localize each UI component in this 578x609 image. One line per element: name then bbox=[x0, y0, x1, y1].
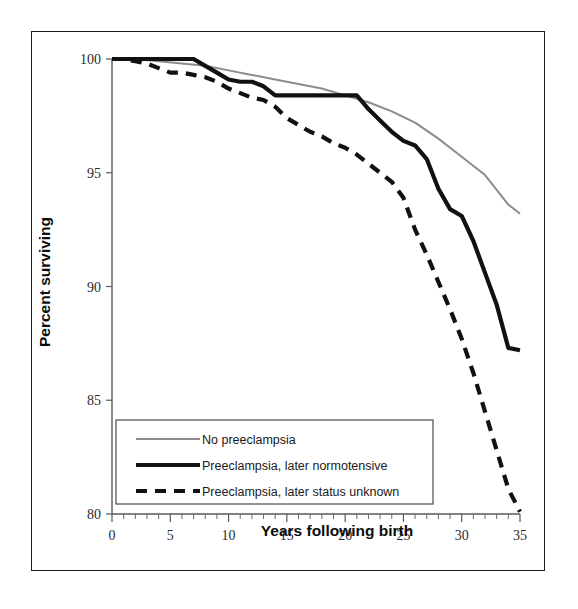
x-axis-title: Years following birth bbox=[261, 522, 413, 539]
y-axis-title: Percent surviving bbox=[36, 217, 53, 347]
x-tick-label: 35 bbox=[513, 528, 527, 543]
legend-label-1: Preeclampsia, later normotensive bbox=[202, 459, 388, 473]
x-axis-ticks bbox=[112, 514, 520, 522]
y-tick-label: 85 bbox=[87, 393, 101, 408]
chart-legend: No preeclampsiaPreeclampsia, later normo… bbox=[116, 420, 433, 504]
y-axis-ticks bbox=[106, 59, 112, 514]
x-tick-label: 5 bbox=[167, 528, 174, 543]
y-axis-tick-labels: 80859095100 bbox=[80, 52, 101, 522]
y-tick-label: 90 bbox=[87, 280, 101, 295]
y-tick-label: 100 bbox=[80, 52, 101, 67]
y-tick-label: 80 bbox=[87, 507, 101, 522]
x-axis-minor-ticks bbox=[124, 514, 509, 519]
survival-curve-chart: 80859095100 05101520253035 Years followi… bbox=[32, 32, 546, 572]
y-tick-label: 95 bbox=[87, 166, 101, 181]
x-tick-label: 0 bbox=[109, 528, 116, 543]
figure-frame: 80859095100 05101520253035 Years followi… bbox=[31, 31, 545, 571]
x-tick-label: 30 bbox=[455, 528, 469, 543]
x-tick-label: 10 bbox=[222, 528, 236, 543]
legend-label-0: No preeclampsia bbox=[202, 433, 296, 447]
legend-label-2: Preeclampsia, later status unknown bbox=[202, 485, 399, 499]
series-line-0 bbox=[112, 59, 520, 214]
y-axis: 80859095100 bbox=[80, 52, 112, 522]
series-line-1 bbox=[112, 59, 520, 350]
chart-plot-area: 80859095100 05101520253035 Years followi… bbox=[32, 32, 546, 572]
